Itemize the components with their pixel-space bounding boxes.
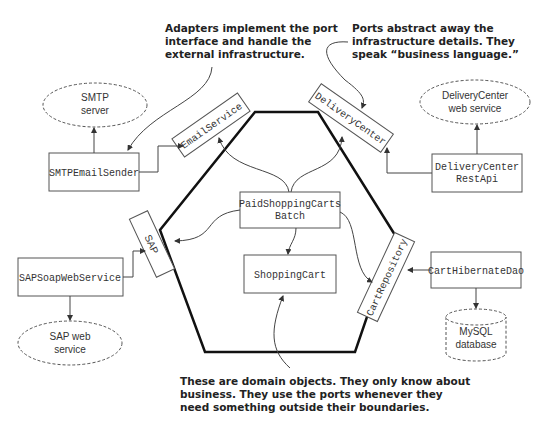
svg-text:need something outside their b: need something outside their boundaries. — [180, 401, 429, 413]
note-domain-pointer — [274, 296, 290, 368]
wire-smtp-to-email-port — [139, 146, 183, 172]
svg-text:Adapters implement the port: Adapters implement the port — [165, 22, 338, 34]
svg-text:CartHibernateDao: CartHibernateDao — [428, 266, 524, 277]
wire-batch-to-email — [219, 138, 289, 192]
wire-batch-to-cart — [288, 228, 296, 254]
adapter-cart-hibernate-dao: CartHibernateDao — [428, 252, 524, 288]
svg-text:PaidShoppingCarts: PaidShoppingCarts — [239, 199, 341, 210]
svg-text:speak “business language.”: speak “business language.” — [352, 48, 519, 60]
wire-batch-to-delivery — [291, 137, 342, 192]
delivery-ws-cloud: DeliveryCenter web service — [420, 80, 530, 124]
wire-batch-to-cart-repo — [340, 212, 372, 282]
adapter-sap-soap-webservice: SAPSoapWebService — [18, 258, 123, 296]
svg-text:ShoppingCart: ShoppingCart — [254, 270, 326, 281]
port-email-service: EmailService — [172, 93, 250, 157]
svg-text:DeliveryCenter: DeliveryCenter — [435, 162, 519, 173]
svg-text:Batch: Batch — [275, 211, 305, 222]
mysql-database: MySQL database — [446, 309, 506, 361]
svg-text:server: server — [81, 105, 109, 116]
smtp-server-cloud: SMTP server — [43, 83, 147, 127]
svg-text:These are domain objects. They: These are domain objects. They only know… — [180, 375, 470, 387]
svg-text:infrastructure details. They: infrastructure details. They — [352, 35, 515, 47]
note-adapters: Adapters implement the port interface an… — [165, 22, 338, 60]
svg-text:business. They use the ports w: business. They use the ports whenever th… — [180, 388, 443, 400]
adapter-delivery-center-restapi: DeliveryCenter RestApi — [432, 154, 522, 192]
svg-text:service: service — [54, 344, 86, 355]
note-domain: These are domain objects. They only know… — [180, 375, 470, 413]
svg-text:database: database — [455, 339, 497, 350]
svg-text:DeliveryCenter: DeliveryCenter — [442, 90, 509, 101]
svg-text:SMTPEmailSender: SMTPEmailSender — [49, 168, 139, 179]
svg-text:EmailService: EmailService — [179, 101, 244, 151]
sap-ws-cloud: SAP web service — [18, 321, 122, 365]
svg-text:MySQL: MySQL — [459, 326, 493, 337]
svg-text:Ports abstract away the: Ports abstract away the — [352, 22, 494, 34]
svg-text:SAPSoapWebService: SAPSoapWebService — [19, 273, 121, 284]
wire-delivery-api-to-port — [387, 148, 432, 173]
adapter-smtp-email-sender: SMTPEmailSender — [49, 153, 139, 191]
wire-sap-soap-to-port — [123, 251, 145, 277]
svg-text:web service: web service — [448, 103, 502, 114]
svg-text:SAP web: SAP web — [50, 331, 91, 342]
svg-text:SMTP: SMTP — [81, 92, 109, 103]
svg-text:external infrastructure.: external infrastructure. — [165, 48, 305, 60]
domain-paid-shopping-carts-batch: PaidShoppingCarts Batch — [239, 192, 341, 228]
svg-text:interface and handle the: interface and handle the — [165, 35, 311, 47]
wire-batch-to-sap — [175, 210, 240, 241]
note-ports: Ports abstract away the infrastructure d… — [352, 22, 519, 60]
svg-text:RestApi: RestApi — [456, 174, 498, 185]
domain-shopping-cart: ShoppingCart — [244, 255, 336, 293]
